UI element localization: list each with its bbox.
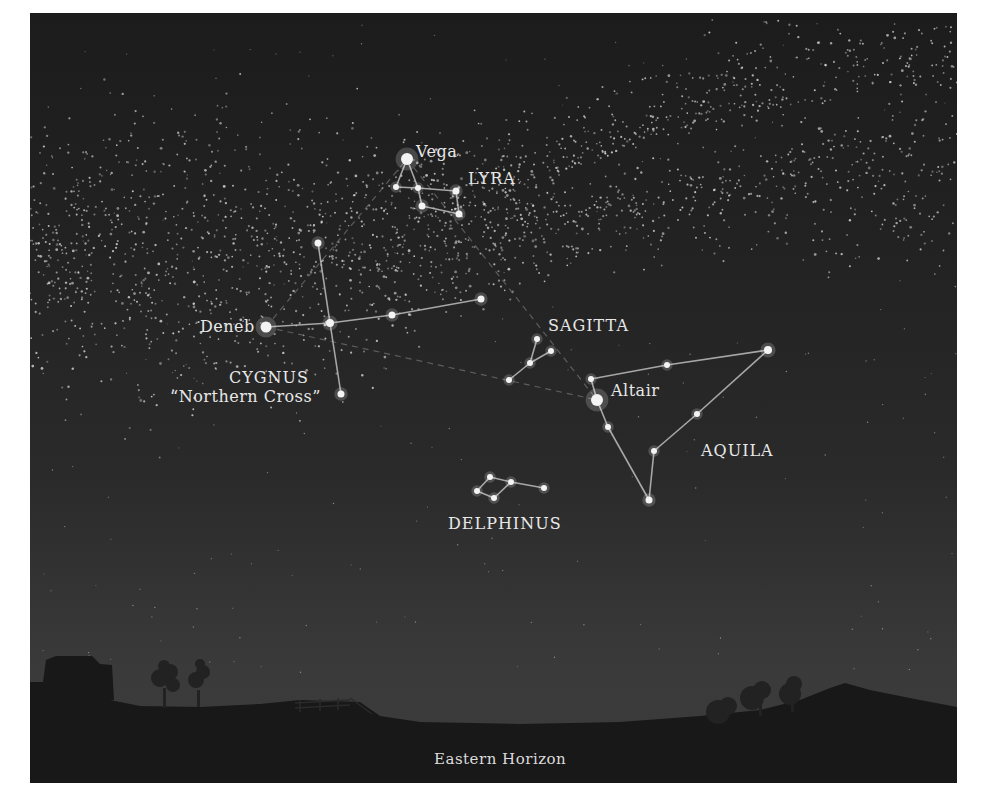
star (487, 474, 493, 480)
trees-left (151, 659, 210, 708)
star (415, 185, 421, 191)
night-sky-illustration: Vega LYRA Deneb CYGNUS “Northern Cross” … (30, 13, 957, 783)
star (326, 319, 334, 327)
star (508, 479, 514, 485)
star (401, 153, 413, 165)
summer-triangle-lines (266, 159, 597, 400)
sky-canvas: Vega LYRA Deneb CYGNUS “Northern Cross” … (30, 13, 957, 783)
star (393, 184, 399, 190)
caption-eastern-horizon: Eastern Horizon (434, 750, 566, 768)
star (534, 336, 540, 342)
star (338, 391, 345, 398)
star (389, 312, 396, 319)
star (591, 394, 603, 406)
star (491, 495, 497, 501)
label-lyra: LYRA (468, 169, 516, 188)
star (664, 362, 670, 368)
constellation-lines (266, 159, 768, 500)
label-deneb: Deneb (200, 317, 255, 336)
star (474, 488, 480, 494)
hill-silhouette (30, 683, 957, 783)
star (506, 377, 512, 383)
label-aquila: AQUILA (700, 441, 774, 460)
milky-way-starfield (30, 19, 957, 678)
star (588, 376, 594, 382)
label-sagitta: SAGITTA (548, 316, 629, 335)
label-vega: Vega (415, 142, 457, 161)
star (764, 346, 772, 354)
barn-silhouette (30, 656, 114, 700)
star (478, 296, 485, 303)
label-altair: Altair (610, 381, 659, 400)
star (453, 188, 460, 195)
star (456, 211, 463, 218)
constellation-stars (256, 148, 776, 507)
star (605, 424, 611, 430)
star (694, 411, 700, 417)
star (646, 497, 653, 504)
star (651, 448, 657, 454)
star (419, 203, 426, 210)
star (261, 322, 272, 333)
star (315, 240, 322, 247)
label-delphinus: DELPHINUS (448, 514, 562, 533)
star (541, 485, 547, 491)
star (548, 348, 554, 354)
star (527, 360, 533, 366)
label-northern-cross: “Northern Cross” (170, 387, 321, 406)
label-cygnus: CYGNUS (229, 368, 309, 387)
